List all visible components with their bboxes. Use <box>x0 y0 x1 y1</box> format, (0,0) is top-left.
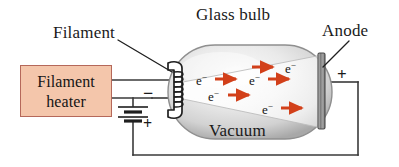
label-filament: Filament <box>53 24 115 41</box>
electron-label: e− <box>249 74 260 87</box>
electron-label: e− <box>285 62 296 75</box>
diagram-canvas: Glass bulb Filament Anode Vacuum Filamen… <box>0 0 399 167</box>
leader-filament <box>118 40 172 72</box>
battery-positive-sign: + <box>143 116 152 132</box>
filament-heater-label-line2: heater <box>21 93 111 111</box>
filament-heater-box: Filament heater <box>20 65 112 117</box>
electron-label: e− <box>196 74 207 87</box>
electron-label: e− <box>262 103 273 116</box>
electron-label: e− <box>208 90 219 103</box>
label-vacuum: Vacuum <box>209 122 266 139</box>
leader-anode <box>323 41 349 67</box>
anode-positive-sign: + <box>337 66 347 83</box>
label-glass-bulb: Glass bulb <box>196 6 270 23</box>
filament-heater-label-line1: Filament <box>21 73 111 91</box>
battery-negative-sign: − <box>143 84 153 102</box>
label-anode: Anode <box>322 22 368 39</box>
anode-plate <box>318 53 325 129</box>
